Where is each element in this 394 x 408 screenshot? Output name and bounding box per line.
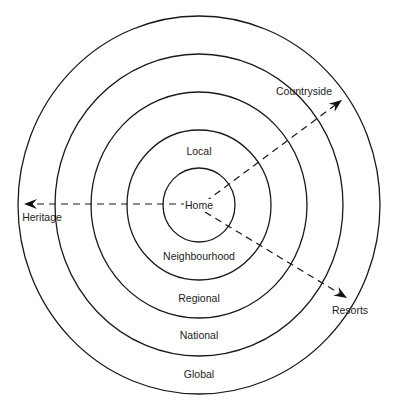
- label-countryside: Countryside: [276, 85, 332, 97]
- label-global: Global: [184, 368, 214, 380]
- arrow-head-icon: [333, 287, 347, 298]
- label-home: Home: [185, 199, 213, 211]
- label-resorts: Resorts: [332, 304, 368, 316]
- label-local: Local: [186, 145, 211, 157]
- arrow-head-icon: [329, 100, 342, 112]
- label-neighbourhood: Neighbourhood: [163, 250, 235, 262]
- label-national: National: [180, 329, 219, 341]
- label-heritage: Heritage: [22, 211, 62, 223]
- ring-labels: Home Local Neighbourhood Regional Nation…: [163, 145, 235, 380]
- arrow-head-icon: [24, 199, 37, 209]
- label-regional: Regional: [178, 292, 219, 304]
- concentric-rings-diagram: Home Local Neighbourhood Regional Nation…: [0, 0, 394, 408]
